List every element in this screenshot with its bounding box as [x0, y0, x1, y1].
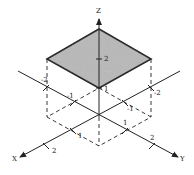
x-tick-1-label: 1	[78, 132, 82, 140]
z-tick-1-label: 1	[104, 85, 108, 93]
z-tick-2-label: 2	[104, 55, 108, 63]
z-axis-label: Z	[96, 7, 101, 15]
y-axis-label: Y	[179, 155, 185, 163]
coordinate-diagram: Z X Y 2 1 1 2 1 2 -1 -2 -1 -2	[0, 0, 194, 175]
diagram-canvas: Z X Y 2 1 1 2 1 2 -1 -2 -1 -2	[0, 0, 194, 175]
x-tick-2-label: 2	[52, 147, 56, 155]
y-tick-1-label: 1	[123, 119, 127, 127]
neg-y-tick-1-label: -1	[67, 92, 74, 100]
x-axis-label: X	[12, 155, 17, 163]
neg-x-tick-1-label: -1	[127, 105, 134, 113]
neg-x-tick-2-label: -2	[154, 89, 161, 97]
neg-y-tick-2-label: -2	[41, 76, 48, 84]
y-tick-2-label: 2	[150, 134, 154, 142]
